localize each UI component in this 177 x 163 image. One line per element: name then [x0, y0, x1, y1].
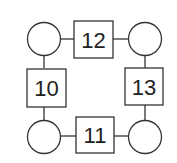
box-left-value: 10 — [34, 76, 58, 101]
circle-bottom-left[interactable] — [28, 121, 61, 154]
puzzle-diagram: 12 10 13 11 — [0, 0, 177, 163]
box-right-value: 13 — [132, 75, 156, 100]
circle-bottom-right[interactable] — [129, 121, 162, 154]
circle-top-left[interactable] — [28, 23, 61, 56]
box-top-value: 12 — [81, 28, 105, 53]
circle-top-right[interactable] — [129, 23, 162, 56]
box-bottom-value: 11 — [84, 123, 107, 148]
